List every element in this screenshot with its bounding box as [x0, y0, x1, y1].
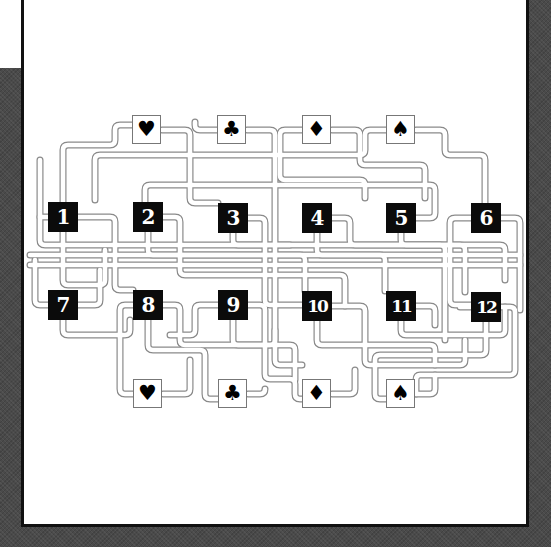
tile-7[interactable]: 7 — [48, 290, 78, 320]
tile-3[interactable]: 3 — [218, 203, 248, 233]
bottom-suit-diamond[interactable]: ♦ — [302, 379, 331, 408]
tile-6[interactable]: 6 — [471, 203, 501, 233]
top-suit-diamond[interactable]: ♦ — [302, 115, 331, 144]
tile-11[interactable]: 11 — [386, 291, 416, 321]
top-suit-club[interactable]: ♣ — [217, 115, 246, 144]
bottom-suit-club[interactable]: ♣ — [218, 379, 247, 408]
top-suit-spade[interactable]: ♠ — [386, 115, 415, 144]
bottom-suit-heart[interactable]: ♥ — [133, 379, 162, 408]
bottom-suit-spade[interactable]: ♠ — [386, 379, 415, 408]
top-suit-heart[interactable]: ♥ — [132, 115, 161, 144]
tile-2[interactable]: 2 — [133, 202, 163, 232]
tile-9[interactable]: 9 — [218, 290, 248, 320]
tile-8[interactable]: 8 — [133, 290, 163, 320]
tile-12[interactable]: 12 — [471, 292, 501, 322]
tile-1[interactable]: 1 — [48, 202, 78, 232]
track-network — [0, 0, 551, 547]
tile-5[interactable]: 5 — [386, 203, 416, 233]
tile-10[interactable]: 10 — [302, 291, 332, 321]
tile-4[interactable]: 4 — [302, 203, 332, 233]
